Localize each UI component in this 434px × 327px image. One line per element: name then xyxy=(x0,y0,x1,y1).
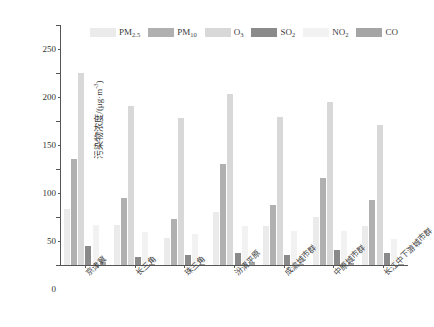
y-axis-tick-major xyxy=(56,73,60,74)
bar-o3[interactable] xyxy=(227,94,233,265)
bar-pm2-5[interactable] xyxy=(313,217,319,265)
bar-pm2-5[interactable] xyxy=(263,226,269,265)
bar-pm2-5[interactable] xyxy=(213,212,219,265)
y-axis-tick-major xyxy=(56,25,60,26)
bar-o3[interactable] xyxy=(178,118,184,265)
bar-o3[interactable] xyxy=(277,117,283,265)
bar-o3[interactable] xyxy=(377,125,383,265)
y-axis-tick-label: 0 xyxy=(26,285,56,294)
bar-group xyxy=(159,25,209,265)
bar-o3[interactable] xyxy=(78,73,84,265)
bar-pm10[interactable] xyxy=(171,219,177,265)
bar-pm10[interactable] xyxy=(270,205,276,265)
y-axis-tick-minor xyxy=(58,241,60,242)
y-axis-tick-major xyxy=(56,217,60,218)
y-axis-tick-major xyxy=(56,121,60,122)
bar-pm2-5[interactable] xyxy=(114,225,120,265)
bar-pm10[interactable] xyxy=(121,198,127,265)
bar-group xyxy=(309,25,359,265)
bar-series-container xyxy=(60,25,408,265)
bar-pm10[interactable] xyxy=(369,200,375,265)
y-axis-tick-label: 100 xyxy=(26,189,56,198)
bar-group xyxy=(209,25,259,265)
y-axis-tick-label: 150 xyxy=(26,141,56,150)
bar-group xyxy=(358,25,408,265)
bar-pm10[interactable] xyxy=(320,178,326,265)
bar-group xyxy=(259,25,309,265)
y-axis-tick-labels: 050100150200250 xyxy=(22,25,56,265)
y-axis-tick-major xyxy=(56,169,60,170)
y-axis-tick-minor xyxy=(58,145,60,146)
bar-pm2-5[interactable] xyxy=(164,238,170,265)
bar-o3[interactable] xyxy=(327,102,333,265)
bar-pm10[interactable] xyxy=(71,159,77,265)
y-axis-tick-minor xyxy=(58,49,60,50)
bar-group xyxy=(60,25,110,265)
plot-area: 污染物浓度/(μg·m-3) xyxy=(60,25,408,265)
y-axis-tick-minor xyxy=(58,193,60,194)
y-axis-tick-label: 250 xyxy=(26,45,56,54)
y-axis-tick-minor xyxy=(58,97,60,98)
bar-group xyxy=(110,25,160,265)
bar-pm2-5[interactable] xyxy=(64,209,70,265)
bar-pm10[interactable] xyxy=(220,164,226,265)
bar-o3[interactable] xyxy=(128,106,134,265)
y-axis-tick-label: 50 xyxy=(26,237,56,246)
y-axis-tick-label: 200 xyxy=(26,93,56,102)
x-axis-category-labels: 京津冀长三角珠三角汾渭平原成渝城市群中原城市群长江中下游城市群 xyxy=(60,266,432,327)
